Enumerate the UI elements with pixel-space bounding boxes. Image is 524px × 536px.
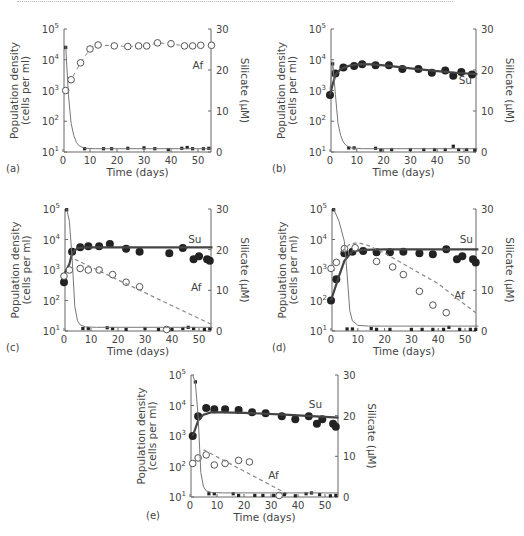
x-tick-label: 10 bbox=[85, 334, 98, 345]
silicate-data-point bbox=[207, 492, 210, 495]
af-data-point bbox=[197, 42, 204, 49]
x-tick-label: 10 bbox=[350, 155, 363, 166]
silicate-data-point bbox=[469, 328, 472, 331]
silicate-data-point bbox=[410, 328, 413, 331]
x-axis-label: Time (days) bbox=[371, 166, 434, 178]
x-tick-label: 40 bbox=[166, 334, 179, 345]
x-tick-label: 40 bbox=[431, 155, 444, 166]
y-tick-label: 105 bbox=[42, 22, 59, 35]
su-data-point bbox=[195, 252, 203, 260]
af-data-point bbox=[77, 60, 84, 67]
y-tick-label: 101 bbox=[310, 324, 327, 337]
af-data-point bbox=[87, 46, 94, 53]
y-tick-label: 105 bbox=[310, 202, 327, 215]
right-tick-label: 0 bbox=[216, 326, 222, 337]
af-data-point bbox=[328, 265, 335, 272]
panel-label: (b) bbox=[272, 163, 286, 174]
y-tick-label: 104 bbox=[169, 399, 187, 412]
x-axis-label: Time (days) bbox=[232, 511, 295, 523]
af-data-point bbox=[352, 244, 359, 251]
x-tick-label: 20 bbox=[111, 155, 124, 166]
right-tick-label: 0 bbox=[481, 147, 487, 158]
y-tick-label: 102 bbox=[42, 114, 59, 127]
x-tick-label: 30 bbox=[404, 155, 417, 166]
silicate-data-point bbox=[458, 328, 461, 331]
y-tick-label: 105 bbox=[169, 368, 186, 381]
su-data-point bbox=[429, 250, 437, 258]
right-tick-label: 10 bbox=[343, 451, 356, 462]
su-data-point bbox=[458, 252, 466, 260]
af-data-point bbox=[430, 302, 437, 309]
silicate-data-point bbox=[294, 494, 297, 497]
series-label: Su bbox=[309, 398, 322, 410]
y-tick-label: 105 bbox=[309, 22, 326, 35]
af-data-point bbox=[211, 462, 218, 469]
silicate-data-point bbox=[375, 328, 378, 331]
x-tick-label: 50 bbox=[458, 155, 471, 166]
af-data-point bbox=[443, 309, 450, 316]
right-tick-label: 30 bbox=[343, 370, 356, 381]
series-label: Su bbox=[459, 74, 472, 86]
x-tick-label: 0 bbox=[187, 500, 193, 511]
af-data-point bbox=[61, 273, 68, 280]
x-tick-label: 40 bbox=[292, 500, 305, 511]
left-axis-label: (cells per ml) bbox=[146, 402, 158, 471]
x-tick-label: 30 bbox=[138, 155, 151, 166]
right-tick-label: 10 bbox=[481, 106, 494, 117]
af-data-point bbox=[68, 76, 75, 83]
x-tick-label: 40 bbox=[165, 155, 178, 166]
right-tick-label: 10 bbox=[216, 285, 229, 296]
right-tick-label: 0 bbox=[343, 492, 349, 503]
series-label: Af bbox=[454, 289, 465, 301]
chart-panel-a: 101102103104105010203001020304050Time (d… bbox=[6, 22, 251, 178]
x-tick-label: 10 bbox=[84, 155, 97, 166]
x-tick-label: 40 bbox=[432, 334, 445, 345]
silicate-data-point bbox=[334, 494, 337, 497]
silicate-data-point bbox=[442, 328, 445, 331]
y-tick-label: 104 bbox=[310, 233, 328, 246]
af-data-point bbox=[125, 43, 132, 50]
x-tick-label: 50 bbox=[459, 334, 472, 345]
silicate-data-point bbox=[474, 328, 477, 331]
left-axis-label: (cells per ml) bbox=[19, 56, 31, 125]
panel-label: (e) bbox=[146, 510, 160, 521]
af-data-point bbox=[333, 259, 340, 266]
x-tick-label: 50 bbox=[192, 155, 205, 166]
x-tick-label: 30 bbox=[405, 334, 418, 345]
x-tick-label: 30 bbox=[265, 500, 278, 511]
y-tick-label: 103 bbox=[169, 429, 186, 442]
chart-panel-c: 101102103104105010203001020304050Time (d… bbox=[6, 202, 251, 357]
silicate-curve bbox=[193, 375, 339, 493]
x-axis-label: Time (days) bbox=[372, 345, 435, 357]
right-tick-label: 10 bbox=[216, 106, 229, 117]
right-axis-label: Silicate (µM) bbox=[239, 58, 251, 123]
af-data-point bbox=[189, 43, 196, 50]
silicate-data-point bbox=[203, 328, 206, 331]
af-data-point bbox=[181, 43, 188, 50]
y-tick-label: 101 bbox=[309, 145, 326, 158]
x-tick-label: 50 bbox=[319, 500, 332, 511]
af-data-point bbox=[416, 288, 423, 295]
y-tick-label: 103 bbox=[309, 84, 326, 97]
x-axis-label: Time (days) bbox=[106, 345, 169, 357]
series-label: Af bbox=[268, 469, 279, 481]
su-data-point bbox=[202, 404, 210, 412]
right-axis-label: Silicate (µM) bbox=[239, 237, 251, 302]
af-data-point bbox=[109, 271, 116, 278]
figure-canvas: 101102103104105010203001020304050Time (d… bbox=[0, 0, 524, 536]
silicate-data-point bbox=[253, 494, 256, 497]
silicate-data-point bbox=[272, 494, 275, 497]
y-tick-label: 102 bbox=[43, 294, 60, 307]
silicate-data-point bbox=[261, 494, 264, 497]
left-axis-label: (cells per ml) bbox=[287, 236, 299, 305]
x-tick-label: 20 bbox=[238, 500, 251, 511]
series-label: Su bbox=[188, 233, 201, 245]
silicate-data-point bbox=[157, 328, 160, 331]
silicate-data-point bbox=[351, 327, 354, 330]
right-tick-label: 30 bbox=[481, 24, 494, 35]
x-tick-label: 20 bbox=[112, 334, 125, 345]
silicate-data-point bbox=[388, 328, 391, 331]
y-tick-label: 103 bbox=[310, 263, 327, 276]
silicate-data-point bbox=[237, 494, 240, 497]
x-tick-label: 50 bbox=[193, 334, 206, 345]
